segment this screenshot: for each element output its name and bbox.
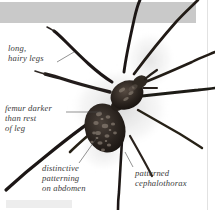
spider-annotated-figure: long, hairy legs femur darker than rest … xyxy=(0,0,215,210)
annotation-abdomen-pattern: distinctive patterning on abdomen xyxy=(42,163,86,194)
annotation-long-hairy-legs: long, hairy legs xyxy=(8,43,44,63)
annotation-patterned-cephalothorax: patterned cephalothorax xyxy=(135,168,187,188)
annotation-femur-darker: femur darker than rest of leg xyxy=(5,103,52,134)
